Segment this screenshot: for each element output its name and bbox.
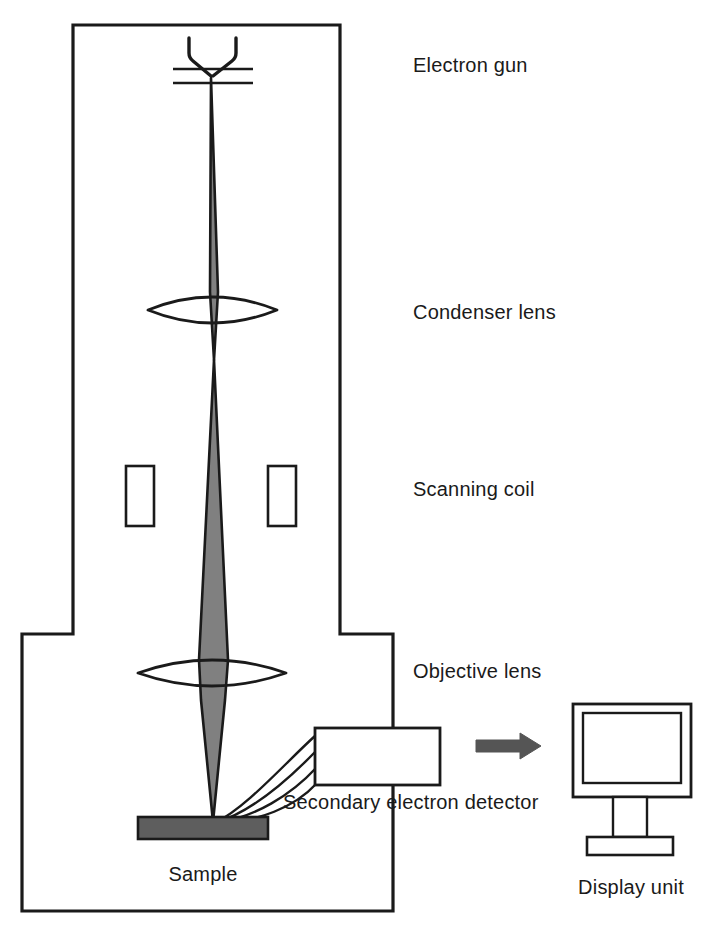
label-electron-gun: Electron gun: [413, 54, 528, 76]
label-scanning-coil: Scanning coil: [413, 478, 535, 500]
signal-flow-arrow: [476, 733, 541, 759]
display-unit-screen: [583, 713, 681, 783]
display-unit-neck: [613, 797, 647, 837]
electron-beam-upper: [210, 78, 218, 360]
label-secondary-electron-detector: Secondary electron detector: [283, 791, 539, 813]
display-unit: [573, 704, 691, 855]
sample-stage: [138, 817, 268, 839]
sem-schematic-canvas: Electron gun Condenser lens Scanning coi…: [0, 0, 724, 933]
scanning-coil-left: [126, 466, 154, 526]
label-display-unit: Display unit: [578, 876, 684, 898]
secondary-electron-detector-box: [315, 728, 440, 785]
label-objective-lens: Objective lens: [413, 660, 541, 682]
display-unit-base: [587, 837, 673, 855]
label-condenser-lens: Condenser lens: [413, 301, 556, 323]
sem-diagram: Electron gun Condenser lens Scanning coi…: [0, 0, 724, 933]
electron-gun-filament: [189, 38, 236, 76]
electron-beam-lower: [199, 360, 228, 822]
scanning-coil-right: [268, 466, 296, 526]
label-sample: Sample: [168, 863, 237, 885]
